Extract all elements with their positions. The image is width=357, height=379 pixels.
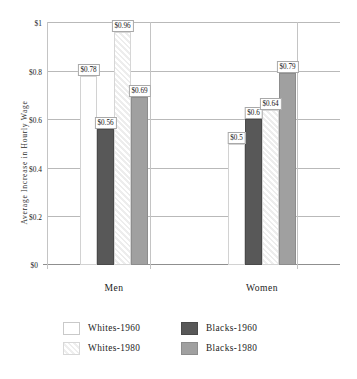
legend-swatch-whites-1980	[63, 342, 80, 355]
legend-item-whites-1960: Whites-1960	[63, 322, 181, 335]
bar-women-whites-1980	[262, 110, 279, 266]
legend-swatch-whites-1960	[63, 322, 80, 335]
data-label-men-blacks-1960: $0.56	[94, 117, 116, 129]
legend-label-blacks-1980: Blacks-1980	[206, 343, 257, 353]
legend-item-blacks-1960: Blacks-1960	[181, 322, 318, 335]
plot-area: $1 $0.8 $0.6 $0.4 $0.2 $0 $0.78 $0.56 $0…	[47, 22, 340, 265]
y-tick-label-1: $1	[35, 19, 42, 28]
category-separator-middle	[150, 22, 151, 269]
category-label-men: Men	[104, 282, 123, 293]
data-label-men-blacks-1980: $0.69	[128, 85, 150, 97]
y-tick-label-0-4: $0.4	[29, 164, 42, 173]
bar-women-blacks-1960	[245, 119, 262, 265]
bar-men-blacks-1980	[131, 97, 148, 265]
bar-men-blacks-1960	[97, 129, 114, 265]
y-tick-label-0-8: $0.8	[29, 67, 42, 76]
clipped-caption	[8, 371, 352, 379]
y-axis-title: Average Increase in Hourly Wage	[20, 53, 29, 273]
legend-label-whites-1960: Whites-1960	[88, 323, 140, 333]
data-label-men-whites-1960: $0.78	[77, 64, 99, 76]
data-label-women-blacks-1980: $0.79	[276, 61, 298, 73]
data-label-men-whites-1980: $0.96	[111, 20, 133, 32]
data-label-women-whites-1980: $0.64	[259, 98, 281, 110]
bar-men-whites-1960	[80, 76, 97, 266]
data-label-women-whites-1960: $0.5	[227, 132, 246, 144]
legend-item-blacks-1980: Blacks-1980	[181, 342, 318, 355]
category-separator-left	[47, 22, 48, 269]
y-tick-label-0-2: $0.2	[29, 213, 42, 222]
legend-label-blacks-1960: Blacks-1960	[206, 323, 257, 333]
y-tick-label-0-6: $0.6	[29, 116, 42, 125]
legend-item-whites-1980: Whites-1980	[63, 342, 181, 355]
legend-swatch-blacks-1980	[181, 342, 198, 355]
category-separator-right	[297, 22, 298, 269]
y-tick-label-0: $0	[31, 261, 38, 270]
legend-label-whites-1980: Whites-1980	[88, 343, 140, 353]
bar-chart: Average Increase in Hourly Wage $1 $0.8 …	[0, 0, 357, 379]
category-label-women: Women	[246, 282, 278, 293]
bar-men-whites-1980	[114, 32, 131, 265]
legend-swatch-blacks-1960	[181, 322, 198, 335]
bar-women-whites-1960	[228, 144, 245, 266]
legend: Whites-1960 Blacks-1960 Whites-1980 Blac…	[63, 318, 318, 358]
